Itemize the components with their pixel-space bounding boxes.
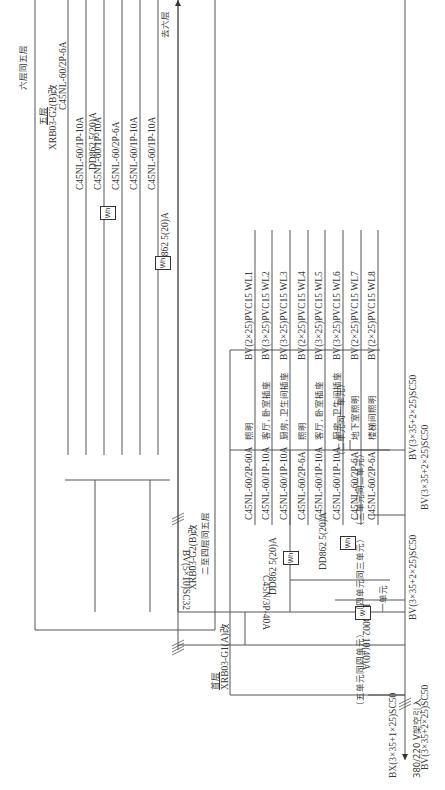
- ff-use-4: 照明: [297, 422, 308, 440]
- first-floor-meter2-label: DD862 5(20)A: [318, 512, 329, 570]
- ff-use-7: 地下室照明: [350, 395, 361, 440]
- ff-cable-8: BV(2×25)PVC15 WL8: [367, 271, 378, 360]
- f5-breaker-1: C45NL-60/2P-6A: [58, 41, 69, 110]
- ff-breaker-5: C45NL-60/1P-10A: [314, 447, 325, 520]
- ff-use-8: 楼梯间照明: [367, 395, 378, 440]
- ff-cable-6: BV(3×25)PVC15 WL6: [332, 271, 343, 360]
- first-floor-meter1-label: DD862 5(20)A: [268, 537, 279, 595]
- ff-cable-2: BV(3×25)PVC15 WL2: [261, 271, 272, 360]
- ff-cable-7: BV(2×25)PVC15 WL7: [350, 271, 361, 360]
- ff-cable-1: BV(2×25)PVC15 WL1: [244, 271, 255, 360]
- unit4-label: （四单元同三单元）: [355, 534, 366, 615]
- unit5-label: （五单元同四单元）: [355, 629, 366, 710]
- unit3-cable: BV(3×35+2×25)SC50: [420, 425, 431, 510]
- f5-breaker-3: C45NL-60/1P-10A: [93, 117, 104, 190]
- middle-box-model: XRB03-G2(B)改: [188, 524, 199, 590]
- ff-cable-5: BV(3×25)PVC15 WL5: [314, 271, 325, 360]
- f5-breaker-4: C45NL-60/2P-6A: [111, 121, 122, 190]
- incoming-cable-label: BX(3×35+1×25)SC50: [388, 693, 399, 778]
- unit-one-label: 一单元: [378, 585, 389, 612]
- unit2-label: （二单元同一单元）: [336, 379, 347, 460]
- ff-breaker-4: C45NL-60/2P-6A: [297, 451, 308, 520]
- ff-breaker-3: C45NL-60/1P-10A: [279, 447, 290, 520]
- to-sixth-floor-label: 去六层: [160, 11, 171, 38]
- unit5-cable: BV(3×35+2×25)SC50: [420, 685, 431, 770]
- ff-breaker-8: C45NL-60/2P-6A: [367, 451, 378, 520]
- middle-box-note: 二至四层同五层: [200, 512, 211, 575]
- fifth-floor-meter2: Wh: [155, 256, 171, 270]
- unit3-label: （三单元同二单元）: [355, 449, 366, 530]
- sixth-same-as-fifth-note: 六层同五层: [18, 45, 29, 90]
- ff-use-5: 客厅, 卧室插座: [314, 381, 325, 440]
- first-floor-meter1: Wh: [283, 551, 299, 565]
- unit2-cable: BV(3×35+2×25)SC50: [408, 375, 419, 460]
- first-floor-box-model: XRB03-G1(A)改: [220, 623, 231, 690]
- ff-use-1: 照明: [244, 422, 255, 440]
- unit4-cable: BV(3×35+2×25)SC50: [408, 535, 419, 620]
- ff-cable-3: BV(3×25)PVC15 WL3: [279, 271, 290, 360]
- wiring-diagram: BX(3×35+1×25)SC50 380/220 V架空引入 BV(5×10)…: [0, 0, 445, 790]
- f5-breaker-5: C45NL-60/1P-10A: [129, 117, 140, 190]
- ff-breaker-1: C45NL-60/2P-60A: [244, 447, 255, 520]
- first-floor-meter2: Wh: [340, 536, 356, 550]
- ff-breaker-2: C45NL-60/1P-10A: [261, 447, 272, 520]
- fifth-floor-meter1: Wh: [100, 206, 116, 220]
- f5-breaker-2: C45NL-60/1P-10A: [75, 117, 86, 190]
- ff-use-3: 厨房, 卫生间插座: [279, 372, 290, 440]
- ff-use-2: 客厅, 卧室插座: [261, 381, 272, 440]
- f5-breaker-6: C45NL-60/1P-10A: [147, 117, 158, 190]
- ff-cable-4: BV(2×25)PVC15 WL4: [297, 271, 308, 360]
